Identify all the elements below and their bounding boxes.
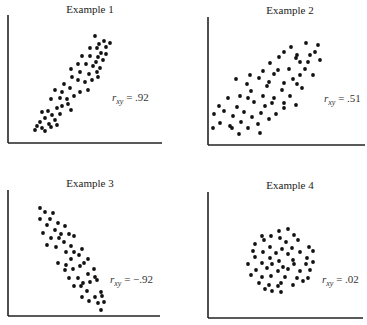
data-point [294,56,298,60]
data-point [72,284,76,288]
data-point [277,229,281,233]
scatter-plots-canvas [0,0,367,325]
data-point [96,75,100,79]
data-point [284,240,288,244]
data-point [263,104,267,108]
data-point [64,263,68,267]
data-point [50,113,54,117]
data-point [35,124,39,128]
data-point [80,247,84,251]
data-point [280,247,284,251]
data-point [295,82,299,86]
data-point [59,232,63,236]
data-point [239,120,243,124]
data-point [83,80,87,84]
data-point [260,234,264,238]
data-point [98,66,102,70]
data-point [76,78,80,82]
data-point [56,221,60,225]
data-point [246,96,250,100]
data-point [249,89,253,93]
data-point [69,108,73,112]
data-point [260,261,264,265]
data-point [80,54,84,58]
data-point [63,224,67,228]
data-point [99,51,103,55]
data-point [45,243,49,247]
data-point [95,278,99,282]
data-point [43,210,47,214]
data-point [93,295,97,299]
data-point [257,76,261,80]
data-point [63,268,67,272]
data-point [91,64,95,68]
data-point [69,67,73,71]
data-point [78,70,82,74]
data-point [62,82,66,86]
data-point [86,272,90,276]
data-point [69,257,73,261]
data-point [97,42,101,46]
data-point [298,60,302,64]
data-point [95,46,99,50]
data-point [277,55,281,59]
data-point [55,123,59,127]
data-point [286,227,290,231]
data-point [99,308,103,312]
data-point [33,128,37,132]
data-point [67,232,71,236]
scatter-plot-example-1 [8,15,162,143]
data-point [265,266,269,270]
data-point [56,261,60,265]
data-point [66,102,70,106]
data-point [211,126,215,130]
data-point [228,124,232,128]
data-point [49,125,53,129]
data-point [267,80,271,84]
data-point [263,287,267,291]
data-point [279,281,283,285]
data-point [64,250,68,254]
scatter-plot-example-4 [208,192,363,318]
data-point [104,52,108,56]
data-point [277,259,281,263]
data-point [242,110,246,114]
data-point [46,109,50,113]
data-point [291,258,295,262]
data-point [254,268,258,272]
data-point [96,301,100,305]
data-point [250,115,254,119]
data-point [45,223,49,227]
data-point [100,294,104,298]
data-point [272,96,276,100]
data-point [268,256,272,260]
data-point [257,281,261,285]
data-point [276,68,280,72]
data-point [274,251,278,255]
data-point [252,100,256,104]
data-point [249,273,253,277]
data-point [212,112,216,116]
data-point [286,267,290,271]
data-point [40,110,44,114]
data-point [261,69,265,73]
data-point [55,106,59,110]
data-point [246,262,250,266]
data-point [246,126,250,130]
data-point [307,245,311,249]
data-point [238,94,242,98]
data-point [279,290,283,294]
data-point [300,86,304,90]
data-point [306,276,310,280]
data-point [88,54,92,58]
data-point [276,284,280,288]
data-point [218,121,222,125]
data-point [306,60,310,64]
data-point [108,41,112,45]
data-point [94,60,98,64]
data-point [84,62,88,66]
data-point [270,289,274,293]
data-point [261,250,265,254]
data-point [53,228,57,232]
data-point [99,290,103,294]
